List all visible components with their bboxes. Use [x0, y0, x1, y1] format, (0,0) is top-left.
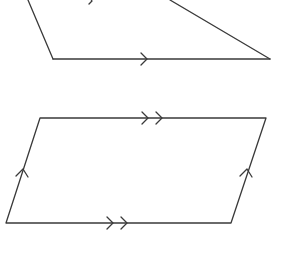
upper-quadrilateral [28, 0, 270, 65]
upper-right-edge [170, 0, 270, 59]
parallelogram-outline [6, 118, 266, 223]
parallelogram [6, 112, 266, 229]
diagram-svg [0, 0, 286, 262]
single-arrow-icon-right [240, 169, 252, 177]
geometry-diagram [0, 0, 286, 262]
partial-arrow-icon [89, 0, 92, 4]
upper-left-edge [28, 0, 53, 59]
